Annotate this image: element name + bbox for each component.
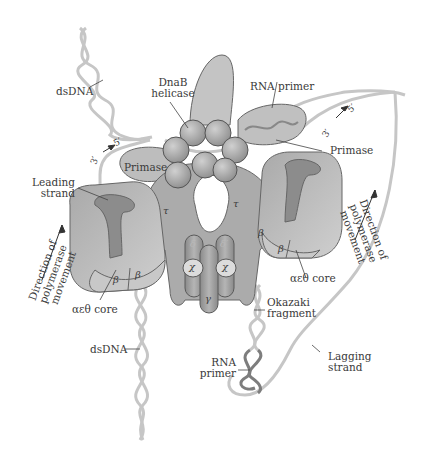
label-core-left: αεθ core (72, 304, 118, 315)
subunit-chi-right: χ (222, 261, 228, 272)
label-dsdna-top: dsDNA (56, 86, 93, 97)
subunit-delta-prime: δ′ (220, 238, 228, 249)
label-dnab-helicase: DnaB helicase (143, 77, 203, 99)
label-core-right: αεθ core (290, 273, 336, 284)
subunit-tau-right: τ (233, 198, 239, 209)
subunit-beta-left-2: β (135, 269, 141, 280)
label-primase-left: Primase (124, 162, 167, 173)
subunit-chi-left: χ (189, 261, 195, 272)
label-leading-strand: Leading strand (30, 177, 75, 199)
label-primase-right: Primase (330, 145, 373, 156)
subunit-delta: δ (190, 238, 196, 249)
subunit-beta-right-2: β (278, 243, 284, 254)
label-dsdna-bottom: dsDNA (90, 344, 127, 355)
subunit-tau-left: τ (163, 205, 169, 216)
subunit-beta-right-1: β (258, 227, 264, 238)
right-polymerase (258, 152, 342, 258)
label-rna-primer-bottom: RNA primer (198, 357, 236, 379)
label-lagging-strand: Lagging strand (328, 351, 372, 373)
label-rna-primer-top: RNA primer (250, 81, 314, 92)
replisome-diagram: dsDNA DnaB helicase RNA primer Primase P… (0, 0, 433, 456)
subunit-gamma: γ (205, 293, 211, 304)
dsdna-top-helix (78, 28, 152, 140)
dsdna-bottom-helix (136, 285, 148, 440)
subunit-beta-left-1: β (113, 274, 119, 285)
label-okazaki-fragment: Okazaki fragment (267, 297, 316, 319)
